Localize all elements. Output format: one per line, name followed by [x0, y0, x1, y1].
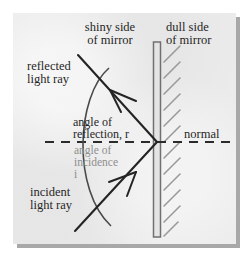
- label-dull-side-of-mirror: dull side of mirror: [166, 21, 238, 47]
- label-reflected-light-ray: reflected light ray: [27, 60, 93, 86]
- reflection-diagram-figure: shiny side of mirror dull side of mirror…: [0, 0, 251, 267]
- label-normal: normal: [184, 128, 240, 141]
- label-shiny-side-of-mirror: shiny side of mirror: [74, 21, 146, 47]
- label-angle-of-reflection: angle of reflection, r: [73, 116, 151, 141]
- label-angle-of-incidence: angle of incidence i: [74, 145, 144, 181]
- label-incident-light-ray: incident light ray: [30, 186, 96, 212]
